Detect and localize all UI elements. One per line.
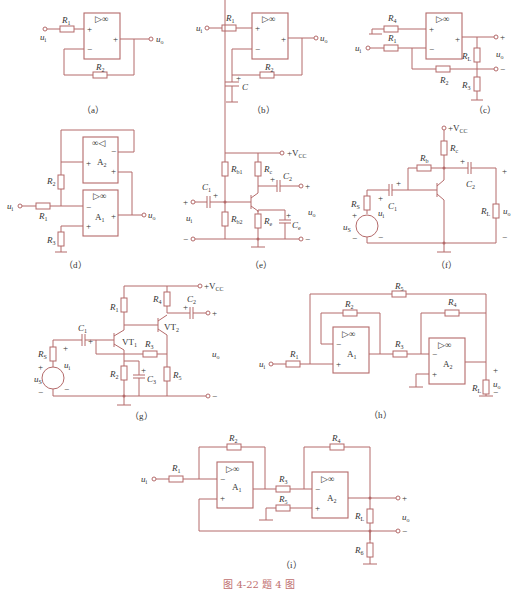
svg-text:ui: ui — [64, 360, 71, 371]
svg-text:uo: uo — [148, 210, 156, 221]
svg-text:−: − — [315, 484, 320, 494]
resistor-r3 — [58, 232, 64, 246]
svg-text:−: − — [432, 349, 437, 359]
svg-text:uo: uo — [156, 34, 164, 45]
resistor-r4 — [384, 26, 398, 32]
svg-text:+: + — [336, 359, 341, 369]
svg-text:−: − — [255, 44, 260, 54]
caption-a: （a） — [82, 105, 104, 115]
resistor-r2 — [227, 444, 241, 450]
svg-text:C3: C3 — [147, 374, 156, 385]
svg-text:uo: uo — [402, 512, 410, 523]
svg-text:+: + — [87, 24, 92, 34]
svg-text:C1: C1 — [388, 201, 397, 212]
svg-text:R1: R1 — [225, 13, 235, 24]
svg-text:+: + — [111, 211, 116, 221]
resistor-r3 — [474, 77, 480, 91]
svg-text:−: − — [212, 391, 217, 401]
svg-text:−: − — [502, 232, 507, 242]
svg-text:RS: RS — [350, 199, 360, 210]
svg-text:−: − — [86, 202, 91, 212]
svg-text:VT1: VT1 — [122, 337, 137, 348]
op-amp-symbol: ▷∞ — [95, 14, 108, 24]
svg-text:+: + — [183, 197, 188, 207]
svg-text:uo: uo — [503, 206, 511, 217]
svg-text:R3: R3 — [278, 474, 288, 485]
svg-text:RL: RL — [471, 383, 482, 394]
svg-text:+: + — [378, 193, 383, 203]
svg-text:C2: C2 — [283, 171, 292, 182]
resistor-r4 — [330, 444, 344, 450]
svg-text:R3: R3 — [394, 339, 404, 350]
resistor-rc — [255, 162, 261, 176]
svg-text:R5: R5 — [394, 281, 404, 292]
svg-text:+VCC: +VCC — [287, 148, 307, 159]
resistor-rl — [367, 509, 373, 523]
resistor-r5 — [392, 291, 406, 297]
svg-text:+: + — [220, 493, 225, 503]
resistor-r1 — [121, 298, 127, 312]
svg-text:+: + — [255, 23, 260, 33]
resistor-rb2 — [222, 212, 228, 226]
svg-text:R6: R6 — [354, 545, 364, 556]
svg-text:RL: RL — [354, 511, 365, 522]
svg-text:Re: Re — [263, 216, 273, 227]
svg-text:−: − — [220, 474, 225, 484]
output-terminal-icon — [149, 37, 153, 41]
svg-text:ui: ui — [378, 208, 385, 219]
svg-text:R2: R2 — [95, 62, 105, 73]
svg-text:R1: R1 — [289, 349, 299, 360]
svg-text:uo: uo — [308, 207, 316, 218]
voltage-source-icon — [356, 215, 378, 237]
svg-text:▷∞: ▷∞ — [342, 329, 355, 339]
resistor-rs — [50, 347, 56, 361]
svg-text:C2: C2 — [187, 294, 196, 305]
svg-text:+: + — [396, 178, 401, 188]
svg-text:R5: R5 — [278, 494, 288, 505]
svg-text:R2: R2 — [344, 299, 354, 310]
svg-text:+: + — [88, 336, 93, 346]
svg-text:R3: R3 — [144, 339, 154, 350]
svg-text:ui: ui — [7, 201, 14, 212]
svg-text:ui: ui — [259, 359, 266, 370]
svg-text:（g）: （g） — [130, 411, 153, 421]
resistor-r4 — [445, 310, 459, 316]
resistor-r6 — [367, 543, 373, 557]
svg-text:−: − — [87, 44, 92, 54]
svg-text:R1: R1 — [171, 463, 181, 474]
panel-e: +VCC Rb1 Rc + + C2 + + C1 Rb2 — [183, 0, 316, 270]
svg-text:ui: ui — [196, 23, 203, 34]
svg-text:ui: ui — [186, 213, 193, 224]
resistor-r1 — [222, 25, 236, 31]
svg-text:（i）: （i） — [281, 560, 302, 570]
resistor-r1 — [384, 45, 398, 51]
panel-h: R5 R2 ▷∞ − + A1 R3 ui R1 R4 ▷∞ − + A2 — [259, 281, 501, 420]
circuit-figure: ▷∞ + − + R1 R2 ui uo （a） ui ▷∞ + − + uo — [0, 0, 518, 599]
svg-text:Ce: Ce — [292, 220, 301, 231]
svg-text:∞◁: ∞◁ — [92, 138, 105, 148]
svg-text:−: − — [305, 234, 310, 244]
resistor-r2 — [121, 366, 127, 380]
svg-text:+: + — [38, 362, 43, 372]
svg-text:R4: R4 — [447, 297, 457, 308]
resistor-r2 — [58, 175, 64, 189]
svg-text:R2: R2 — [264, 62, 274, 73]
svg-text:−: − — [429, 44, 434, 54]
svg-text:−: − — [493, 387, 498, 397]
svg-text:uo: uo — [320, 33, 328, 44]
svg-text:uS: uS — [34, 374, 42, 385]
svg-text:+: + — [270, 174, 275, 184]
resistor-r2 — [93, 72, 107, 78]
resistor-r1 — [169, 476, 183, 482]
svg-text:R5: R5 — [172, 370, 182, 381]
svg-text:R3: R3 — [461, 80, 471, 91]
svg-text:Rb1: Rb1 — [230, 164, 243, 175]
svg-text:R2: R2 — [439, 75, 449, 86]
svg-text:uS: uS — [343, 222, 351, 233]
svg-text:+: + — [212, 308, 217, 318]
resistor-r3 — [393, 351, 407, 357]
figure-caption: 图 4-22 题 4 图 — [0, 576, 518, 591]
svg-text:▷∞: ▷∞ — [436, 14, 449, 24]
svg-text:−: − — [336, 339, 341, 349]
resistor-r1 — [36, 203, 50, 209]
